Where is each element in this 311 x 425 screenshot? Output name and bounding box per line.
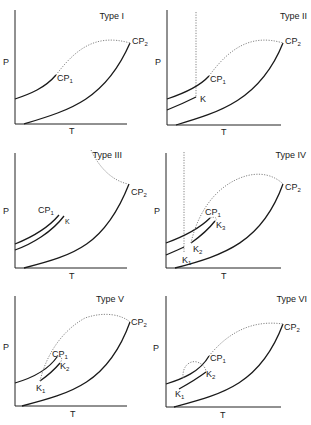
k-label: K — [65, 218, 70, 225]
axes — [166, 153, 281, 268]
axes — [166, 296, 281, 407]
panel-title: Type IV — [275, 150, 306, 160]
panel-type-v: Type V P T CP1 CP2 K1 K2 — [3, 294, 148, 419]
x-axis-label: T — [69, 271, 75, 281]
cp2-label: CP2 — [285, 36, 302, 47]
vapor-pressure-curve-2 — [24, 184, 129, 268]
lle-curve — [15, 216, 64, 250]
lle-curve-low — [166, 247, 184, 255]
k2-label: K2 — [206, 369, 216, 380]
x-axis-label: T — [221, 271, 227, 281]
cp2-label: CP2 — [131, 187, 148, 198]
cp1-label: CP1 — [205, 207, 222, 218]
critical-locus — [56, 40, 130, 75]
cp1-label: CP1 — [57, 73, 74, 84]
k3-label: K3 — [216, 220, 226, 231]
y-axis-label: P — [154, 206, 160, 216]
panel-title: Type VI — [276, 294, 307, 304]
vapor-pressure-curve-1 — [166, 218, 210, 243]
panel-type-vi: Type VI P T CP1 CP2 K1 K2 — [153, 294, 307, 420]
cp1-label: CP1 — [210, 74, 227, 85]
vapor-pressure-curve-2 — [22, 322, 130, 406]
vapor-pressure-curve-1 — [166, 356, 209, 384]
k1-label: K1 — [36, 383, 46, 394]
vapor-pressure-curve-2 — [174, 324, 283, 407]
axes — [15, 153, 127, 268]
cp1-label: CP1 — [52, 349, 69, 360]
critical-locus — [209, 40, 283, 76]
axes — [15, 296, 127, 406]
x-axis-label: T — [221, 127, 227, 137]
phase-diagram-figure: Type I P T CP1 CP2 Type II P T CP1 CP2 K… — [0, 0, 311, 425]
cp1-label: CP1 — [38, 205, 55, 216]
vapor-pressure-curve-1 — [15, 357, 57, 383]
x-axis-label: T — [70, 409, 76, 419]
x-axis-label: T — [220, 410, 226, 420]
k-label: K — [200, 94, 206, 104]
panel-title: Type V — [96, 294, 124, 304]
panel-type-iv: Type IV P T CP1 CP2 K1 K2 K3 — [154, 150, 306, 281]
y-axis-label: P — [155, 57, 161, 67]
critical-locus — [209, 323, 283, 356]
cp2-label: CP2 — [285, 182, 302, 193]
panel-type-i: Type I P T CP1 CP2 — [3, 10, 149, 136]
vapor-pressure-curve-1 — [15, 75, 56, 99]
y-axis-label: P — [3, 342, 9, 352]
cp2-label: CP2 — [284, 322, 301, 333]
cp2-label: CP2 — [131, 317, 148, 328]
cp2-label: CP2 — [132, 36, 149, 47]
critical-locus — [40, 314, 130, 381]
panel-title: Type III — [92, 150, 122, 160]
panel-type-iii: Type III P T CP1 CP2 K — [3, 150, 148, 281]
y-axis-label: P — [3, 57, 9, 67]
k2-label: K2 — [193, 244, 203, 255]
vapor-pressure-curve-2 — [176, 43, 283, 125]
y-axis-label: P — [3, 206, 9, 216]
vapor-pressure-curve-2 — [175, 184, 283, 268]
panel-type-ii: Type II P T CP1 CP2 K — [155, 10, 307, 137]
panel-title: Type II — [280, 11, 307, 21]
y-axis-label: P — [153, 343, 159, 353]
k2-label: K2 — [60, 361, 70, 372]
panel-title: Type I — [99, 11, 124, 21]
k1-label: K1 — [175, 389, 185, 400]
k1-label: K1 — [182, 255, 192, 266]
vapor-pressure-curve-2 — [24, 43, 130, 124]
lle-curve — [167, 97, 196, 110]
cp1-label: CP1 — [210, 353, 227, 364]
x-axis-label: T — [69, 126, 75, 136]
